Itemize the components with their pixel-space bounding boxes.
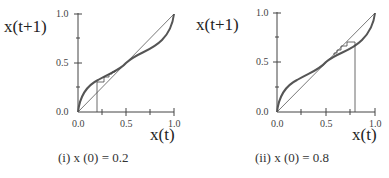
y-axis-label-left: x(t+1)	[4, 17, 47, 36]
y-tick-05-right: 0.5	[256, 56, 269, 67]
x-tick-0: 0.0	[72, 118, 85, 129]
plot-right: x(t+1) 1.0 0.5 0.0 0.0 0.5 1.0 x(t) (ii)…	[196, 7, 382, 165]
caption-left: (i) x (0) = 0.2	[58, 150, 129, 165]
y-tick-1: 1.0	[56, 8, 69, 19]
plot-left: x(t+1) 1.0 0.5 0.0 0.0 0.5 1.0 x(t) (i) …	[4, 8, 181, 165]
x-tick-05-right: 0.5	[320, 118, 333, 129]
caption-right: (ii) x (0) = 0.8	[255, 150, 329, 165]
x-axis-label-left: x(t)	[150, 125, 175, 144]
x-tick-0-right: 0.0	[271, 118, 284, 129]
x-axis-label-right: x(t)	[352, 125, 377, 144]
y-tick-05: 0.5	[56, 57, 69, 68]
y-axis-label-right: x(t+1)	[196, 15, 239, 34]
x-tick-05: 0.5	[120, 118, 133, 129]
y-tick-0-right: 0.0	[256, 106, 269, 117]
y-tick-1-right: 1.0	[256, 7, 269, 18]
y-tick-0: 0.0	[56, 106, 69, 117]
figure: x(t+1) 1.0 0.5 0.0 0.0 0.5 1.0 x(t) (i) …	[0, 0, 389, 178]
